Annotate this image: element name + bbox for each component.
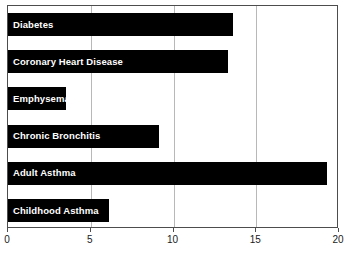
x-tick-label-0: 0 (4, 235, 10, 245)
x-axis: 05101520 (7, 228, 338, 257)
bar-adult-asthma[interactable]: Adult Asthma (8, 162, 327, 185)
x-tick-mark-15 (255, 228, 256, 232)
bar-coronary-heart-disease[interactable]: Coronary Heart Disease (8, 50, 228, 73)
bar-childhood-asthma[interactable]: Childhood Asthma (8, 199, 109, 222)
x-tick-label-5: 5 (87, 235, 93, 245)
bar-label: Adult Asthma (8, 168, 76, 178)
x-tick-mark-5 (90, 228, 91, 232)
bar-band: Emphysema (8, 80, 337, 117)
bar-emphysema[interactable]: Emphysema (8, 87, 66, 110)
bar-label: Coronary Heart Disease (8, 57, 123, 67)
bar-diabetes[interactable]: Diabetes (8, 13, 233, 36)
bar-label: Emphysema (8, 94, 70, 104)
bar-band: Adult Asthma (8, 155, 337, 192)
bar-label: Childhood Asthma (8, 206, 99, 216)
bar-band: Childhood Asthma (8, 192, 337, 228)
x-tick-mark-20 (338, 228, 339, 232)
bar-band: Diabetes (8, 6, 337, 43)
bar-band: Coronary Heart Disease (8, 43, 337, 80)
bar-label: Diabetes (8, 20, 53, 30)
x-tick-label-10: 10 (167, 235, 178, 245)
bars-container: DiabetesCoronary Heart DiseaseEmphysemaC… (8, 6, 337, 227)
x-tick-mark-0 (7, 228, 8, 232)
bar-chronic-bronchitis[interactable]: Chronic Bronchitis (8, 125, 159, 148)
bar-label: Chronic Bronchitis (8, 131, 100, 141)
x-tick-label-20: 20 (332, 235, 343, 245)
x-tick-mark-10 (173, 228, 174, 232)
plot-area: DiabetesCoronary Heart DiseaseEmphysemaC… (7, 5, 338, 228)
x-tick-label-15: 15 (250, 235, 261, 245)
bar-band: Chronic Bronchitis (8, 118, 337, 155)
